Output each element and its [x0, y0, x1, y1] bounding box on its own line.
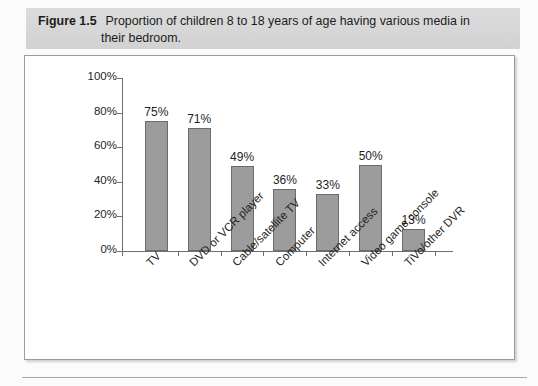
- bar-value-label: 49%: [212, 150, 272, 164]
- y-axis-tick-label-wrap: 40%: [65, 182, 117, 183]
- x-axis-tick: [221, 251, 222, 256]
- figure-caption: Figure 1.5Proportion of children 8 to 18…: [38, 13, 510, 46]
- y-axis-tick-label: 20%: [71, 208, 117, 220]
- y-axis-tick-label: 80%: [71, 105, 117, 117]
- y-axis-tick: [117, 216, 122, 217]
- y-axis-tick-label: 40%: [71, 174, 117, 186]
- y-axis-tick: [117, 113, 122, 114]
- x-axis-tick: [349, 251, 350, 256]
- y-axis-tick-label-wrap: 60%: [65, 147, 117, 148]
- y-axis-tick: [117, 147, 122, 148]
- y-axis-tick-label-wrap: 0%: [65, 251, 117, 252]
- page-divider-rule: [22, 377, 527, 378]
- chart-frame: 0%20%40%60%80%100% 75%71%49%36%33%50%13%…: [24, 55, 515, 360]
- x-axis-tick: [435, 251, 436, 256]
- x-axis-tick: [306, 251, 307, 256]
- figure-number-label: Figure 1.5: [38, 14, 97, 28]
- y-axis-tick-label: 60%: [71, 139, 117, 151]
- figure-caption-line1: Proportion of children 8 to 18 years of …: [106, 14, 470, 28]
- bar-value-label: 50%: [341, 149, 401, 163]
- bar-value-label: 33%: [298, 178, 358, 192]
- x-axis-tick: [263, 251, 264, 256]
- y-axis-tick-label: 100%: [71, 70, 117, 82]
- x-axis-category-label: TV: [144, 250, 163, 269]
- y-axis-tick-label: 0%: [71, 243, 117, 255]
- y-axis-tick-label-wrap: 20%: [65, 216, 117, 217]
- y-axis-line: [122, 78, 123, 251]
- bar-chart-plot-area: 0%20%40%60%80%100% 75%71%49%36%33%50%13%…: [25, 56, 516, 361]
- x-axis-tick: [122, 251, 123, 256]
- y-axis-tick: [117, 78, 122, 79]
- y-axis-tick-label-wrap: 80%: [65, 113, 117, 114]
- bar: [188, 128, 211, 251]
- bar-value-label: 71%: [169, 112, 229, 126]
- figure-caption-line2: their bedroom.: [101, 30, 510, 47]
- x-axis-tick: [178, 251, 179, 256]
- x-axis-tick: [392, 251, 393, 256]
- figure-caption-band: Figure 1.5Proportion of children 8 to 18…: [26, 8, 520, 49]
- y-axis-tick: [117, 182, 122, 183]
- y-axis-tick-label-wrap: 100%: [65, 78, 117, 79]
- bar: [145, 121, 168, 251]
